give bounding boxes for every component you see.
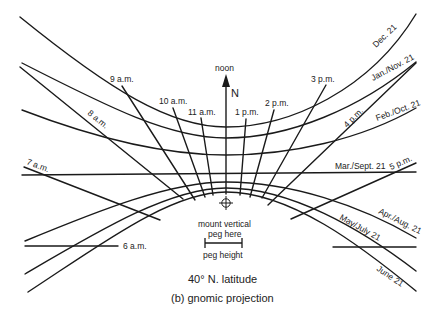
label-feb-oct-21: Feb./Oct. 21	[374, 97, 422, 122]
latitude-caption: 40° N. latitude	[188, 273, 257, 285]
label-7am: 7 a.m.	[25, 157, 51, 175]
peg-instruction-line2: peg here	[208, 229, 242, 239]
label-mar-sept-21: Mar./Sept. 21	[335, 161, 386, 171]
label-june-21: June 21	[375, 263, 406, 288]
date-line-mar-sept-21	[22, 172, 416, 175]
label-9am: 9 a.m.	[110, 74, 134, 84]
peg-instruction-line1: mount vertical	[198, 219, 251, 229]
projection-caption: (b) gnomic projection	[171, 292, 274, 304]
label-1pm: 1 p.m.	[235, 107, 259, 117]
label-5pm: 5 p.m.	[388, 153, 414, 172]
label-3pm: 3 p.m.	[311, 74, 335, 84]
label-6am: 6 a.m.	[123, 241, 147, 251]
label-2pm: 2 p.m.	[265, 98, 289, 108]
label-8am: 8 a.m.	[86, 108, 111, 131]
gnomic-sundial-diagram: 6 a.m. 7 a.m. 8 a.m. 9 a.m. 10 a.m. 11 a…	[0, 0, 441, 322]
label-noon: noon	[215, 63, 234, 73]
peg-height-scale-bar	[205, 238, 242, 248]
hour-line-5pm	[291, 163, 416, 219]
north-arrow-icon	[222, 74, 230, 87]
label-10am: 10 a.m.	[159, 96, 187, 106]
label-4pm: 4 p.m.	[341, 106, 365, 130]
label-north: N	[231, 87, 239, 99]
hour-line-8am	[20, 67, 183, 199]
peg-crosshair-icon	[219, 196, 233, 210]
peg-height-label: peg height	[203, 250, 243, 260]
hour-line-1pm	[240, 119, 246, 195]
label-11am: 11 a.m.	[188, 107, 216, 117]
hour-line-4pm	[268, 63, 416, 205]
